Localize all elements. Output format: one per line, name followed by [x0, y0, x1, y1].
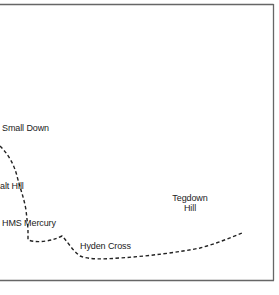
label-hms-mercury: HMS Mercury	[2, 218, 56, 228]
label-tegdown-hill-line2: Hill	[170, 203, 210, 213]
label-tegdown-hill-line1: Tegdown	[170, 193, 210, 203]
label-hyden-cross: Hyden Cross	[80, 241, 131, 251]
map-canvas: Small Down alt Hill HMS Mercury Hyden Cr…	[0, 0, 279, 295]
label-small-down: Small Down	[2, 123, 49, 133]
label-chalt-hill: alt Hill	[0, 181, 24, 191]
route-map-svg	[0, 0, 279, 295]
label-tegdown-hill: Tegdown Hill	[170, 193, 210, 213]
